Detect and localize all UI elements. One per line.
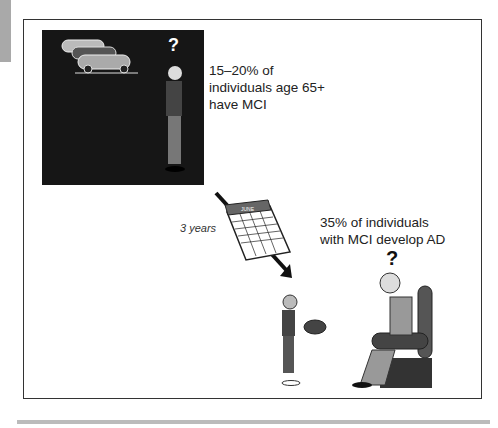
- mci-prevalence-text: 15–20% of individuals age 65+ have MCI: [209, 62, 325, 113]
- question-mark-top: ?: [168, 35, 179, 55]
- svg-text:JUNE: JUNE: [241, 206, 255, 212]
- boy-with-football-icon: [282, 295, 326, 386]
- duration-label: 3 years: [180, 222, 216, 234]
- ad-conversion-text: 35% of individuals with MCI develop AD: [320, 214, 445, 248]
- seated-man-icon: [352, 273, 432, 388]
- calendar-icon: JUNE: [225, 200, 290, 260]
- svg-text:?: ?: [386, 247, 398, 269]
- cars-icon: [62, 40, 138, 73]
- thinking-man-icon: ?: [165, 35, 185, 172]
- footer-divider: [17, 420, 490, 424]
